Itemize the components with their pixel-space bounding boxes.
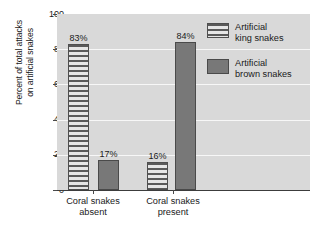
bar-label-brown-snakes-present: 84%: [168, 32, 203, 41]
plot-area: 83% 17% 16% 84% Artificial king snakes A…: [57, 14, 310, 191]
bar-chart-figure: Percent of total attacks on artificial s…: [0, 0, 317, 226]
legend-label-brown-snakes: Artificial brown snakes: [235, 58, 292, 80]
striped-swatch-icon: [207, 23, 229, 38]
solid-swatch-icon: [207, 59, 229, 74]
legend-item-brown-snakes: Artificial brown snakes: [207, 58, 292, 80]
bar-brown-snakes-absent: [98, 160, 119, 190]
x-tick-mark-present: [173, 190, 174, 194]
bar-label-brown-snakes-absent: 17%: [91, 150, 126, 159]
bar-king-snakes-present: [147, 162, 168, 190]
legend-label-king-snakes: Artificial king snakes: [235, 22, 284, 44]
bar-king-snakes-absent: [68, 44, 89, 190]
bar-brown-snakes-present: [175, 42, 196, 190]
x-tick-label-present: Coral snakes present: [118, 196, 228, 218]
bar-label-king-snakes-absent: 83%: [61, 34, 96, 43]
y-axis-title: Percent of total attacks on artificial s…: [14, 0, 35, 143]
x-tick-mark-absent: [93, 190, 94, 194]
bar-label-king-snakes-present: 16%: [140, 152, 175, 161]
legend-item-king-snakes: Artificial king snakes: [207, 22, 284, 44]
